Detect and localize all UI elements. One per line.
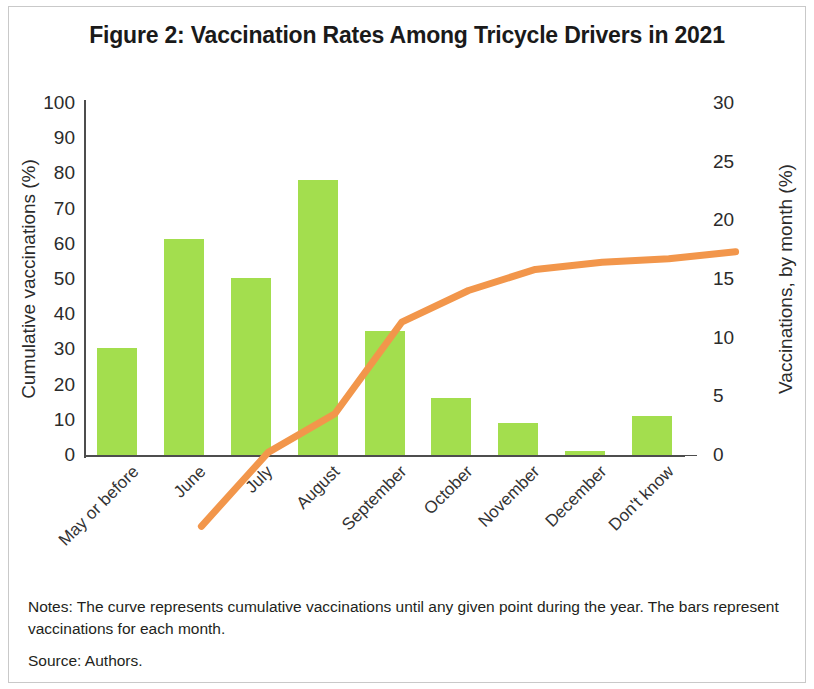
x-axis-tick-label: August: [292, 462, 344, 514]
x-axis-tick-label: Don't know: [605, 462, 678, 535]
x-axis-tick-label: June: [170, 462, 210, 502]
x-axis-tick-label: October: [420, 462, 477, 519]
figure-notes: Notes: The curve represents cumulative v…: [28, 596, 788, 641]
chart-canvas: Cumulative vaccinations (%) Vaccinations…: [0, 0, 814, 580]
x-axis-tick-label: December: [541, 462, 611, 532]
figure-source: Source: Authors.: [28, 652, 788, 670]
x-axis-labels: May or beforeJuneJulyAugustSeptemberOcto…: [0, 0, 814, 580]
x-axis-tick-label: November: [475, 462, 545, 532]
x-axis-tick-label: May or before: [55, 462, 143, 550]
x-axis-tick-label: September: [338, 462, 411, 535]
x-axis-tick-label: July: [242, 462, 278, 498]
